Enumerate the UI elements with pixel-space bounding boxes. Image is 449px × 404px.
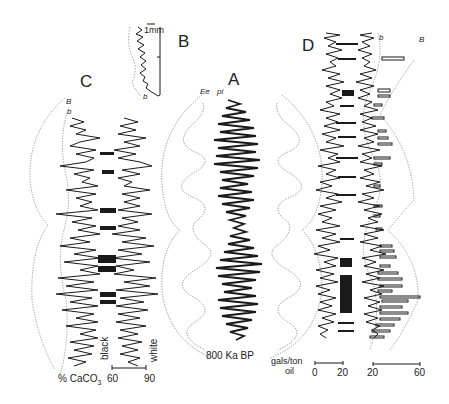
panel-d-scale2-tick-20: 20 <box>367 367 378 378</box>
panel-b-dotted-envelope <box>129 27 142 97</box>
panel-d-black-bars <box>336 43 358 332</box>
panel-c-envelopes <box>30 98 69 375</box>
panel-b-curve-label: b <box>143 92 147 101</box>
panel-a-precession <box>214 100 262 340</box>
panel-d-label-b: b <box>379 33 383 42</box>
panel-c-label-black: black <box>99 337 110 360</box>
panel-a-label-ee: Ee <box>200 87 210 96</box>
panel-d-axis-title-line1: gals/ton <box>271 356 303 366</box>
panel-c-label-B: B <box>66 97 71 106</box>
panel-d-axis-title-line2: oil <box>285 366 294 376</box>
panel-d-oil-bars <box>370 57 420 338</box>
panel-a-label-pi: pi <box>217 87 223 96</box>
panel-a-age-label: 800 Ka BP <box>206 350 254 361</box>
panel-c-black-bands <box>98 152 116 304</box>
panel-c-label-white: white <box>148 339 159 362</box>
panel-c-axis-title: % CaCO3 <box>58 373 101 386</box>
panel-c-axis <box>112 365 146 370</box>
panel-d-scale1-tick-0: 0 <box>312 367 318 378</box>
panel-d-axes <box>315 361 420 366</box>
panel-d-scale1-tick-20: 20 <box>337 367 348 378</box>
panel-c-label-b: b <box>67 107 71 116</box>
panel-d-letter: D <box>302 36 314 56</box>
diagram-canvas <box>0 0 449 404</box>
panel-d-scale2-tick-60: 60 <box>414 367 425 378</box>
panel-c-tick-90: 90 <box>144 373 155 384</box>
panel-c-letter: C <box>80 72 92 92</box>
panel-d-label-B: B <box>419 35 424 44</box>
panel-c-black-trace <box>56 118 158 366</box>
panel-c-tick-60: 60 <box>107 373 118 384</box>
panel-a-letter: A <box>228 70 239 90</box>
panel-b-letter: B <box>178 32 189 52</box>
panel-b-scale-label: 1mm <box>144 25 164 35</box>
